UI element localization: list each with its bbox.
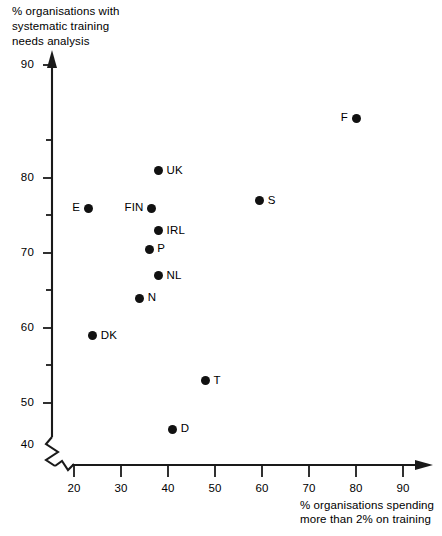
data-point-label: IRL bbox=[167, 225, 186, 236]
data-point-label: D bbox=[181, 423, 190, 434]
x-tick-label-70: 70 bbox=[297, 482, 321, 494]
x-tick-label-20: 20 bbox=[62, 482, 86, 494]
data-point-marker bbox=[147, 204, 156, 213]
y-tick-label-40: 40 bbox=[10, 438, 34, 450]
data-point-label: N bbox=[148, 292, 157, 303]
data-point-label: NL bbox=[167, 270, 182, 281]
y-tick-label-70: 70 bbox=[10, 246, 34, 258]
x-axis-arrowhead bbox=[415, 460, 433, 470]
data-point-label: DK bbox=[101, 330, 117, 341]
data-point-label: F bbox=[0, 112, 348, 123]
y-tick-label-60: 60 bbox=[10, 321, 34, 333]
scatter-chart: % organisations with systematic training… bbox=[0, 0, 442, 536]
y-tick-label-90: 90 bbox=[10, 58, 34, 70]
y-axis-break-zigzag bbox=[46, 437, 58, 466]
data-point-label: P bbox=[157, 243, 165, 254]
data-point-marker bbox=[145, 245, 154, 254]
x-tick-label-90: 90 bbox=[391, 482, 415, 494]
x-tick-label-60: 60 bbox=[250, 482, 274, 494]
data-point-marker bbox=[168, 425, 177, 434]
x-axis-break-zigzag bbox=[55, 461, 74, 470]
data-point-label: T bbox=[214, 375, 221, 386]
y-tick-label-50: 50 bbox=[10, 396, 34, 408]
x-tick-label-40: 40 bbox=[156, 482, 180, 494]
data-point-label: S bbox=[268, 195, 276, 206]
data-point-label: FIN bbox=[0, 202, 144, 213]
axes-lines bbox=[0, 0, 442, 536]
data-point-marker bbox=[352, 114, 361, 123]
x-tick-label-30: 30 bbox=[109, 482, 133, 494]
x-tick-label-50: 50 bbox=[203, 482, 227, 494]
y-tick-label-80: 80 bbox=[10, 171, 34, 183]
data-point-label: UK bbox=[167, 165, 183, 176]
x-tick-label-80: 80 bbox=[344, 482, 368, 494]
data-point-marker bbox=[135, 294, 144, 303]
